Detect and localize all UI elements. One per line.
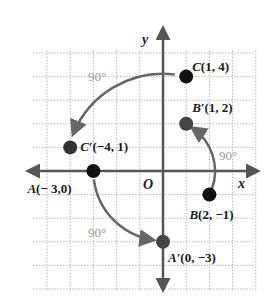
labels: xyO90°90°90°C(1, 4)C′(−4, 1)B′(1, 2)B(2,… (26, 32, 245, 265)
point-label-a: A(− 3,0) (26, 181, 71, 196)
point-label-bp: B′(1, 2) (191, 100, 233, 115)
rotation-arc-b (192, 128, 215, 189)
angle-label: 90° (88, 225, 106, 240)
point-label-b: B(2, −1) (188, 207, 233, 222)
angle-label: 90° (88, 69, 106, 84)
point-label-ap: A′(0, −3) (167, 250, 216, 265)
point-label-c: C(1, 4) (192, 59, 229, 74)
coordinate-plane: xyO90°90°90°C(1, 4)C′(−4, 1)B′(1, 2)B(2,… (0, 0, 267, 304)
angle-label: 90° (219, 148, 237, 163)
x-axis-label: x (237, 176, 245, 191)
point-a (86, 164, 100, 178)
point-label-cp: C′(−4, 1) (80, 139, 128, 154)
y-axis-label: y (140, 32, 149, 47)
point-cp (63, 140, 77, 154)
point-bp (179, 117, 193, 131)
origin-label: O (143, 177, 153, 192)
point-b (202, 188, 216, 202)
point-c (179, 70, 193, 84)
point-ap (156, 235, 170, 249)
